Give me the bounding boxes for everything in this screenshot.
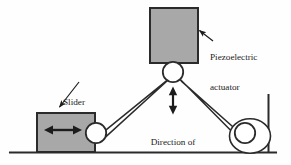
wheel-pivot-joint [235, 123, 255, 143]
slider-pivot-joint [86, 123, 106, 143]
piezoelectric-actuator-label: Piezoelectric actuator [210, 31, 257, 113]
actuator-label-line-2: actuator [210, 82, 257, 92]
mechanism-diagram: Piezoelectric actuator Slider Direction … [0, 0, 291, 165]
piezoelectric-actuator-block [150, 8, 198, 63]
top-pivot-joint [163, 62, 183, 82]
direction-of-motion-arrow-icon [169, 87, 177, 115]
direction-of-motion-label: Direction of motion [131, 116, 215, 165]
slider-label: Slider [63, 76, 85, 127]
actuator-label-line-1: Piezoelectric [210, 52, 257, 62]
direction-label-line-1: Direction of [131, 137, 215, 147]
slider-label-line-1: Slider [63, 97, 85, 107]
